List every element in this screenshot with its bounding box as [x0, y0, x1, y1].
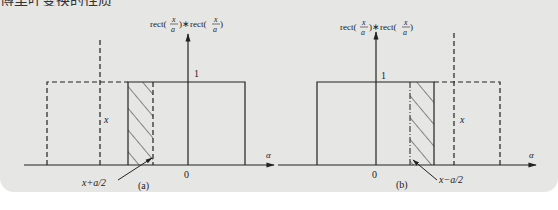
conv-operator: )∗rect(	[369, 22, 396, 32]
shift-label-a: x	[103, 114, 109, 125]
paren: )	[410, 22, 413, 32]
caption-a: (a)	[138, 180, 149, 192]
figure-b: rect( x a )∗rect( x a ) 1 x 0 α x−a/2 (b…	[278, 18, 536, 191]
origin-label-a: 0	[184, 169, 189, 180]
shifted-rect-a	[47, 82, 128, 165]
alpha-label-b: α	[529, 150, 534, 160]
caption-b: (b)	[396, 179, 408, 191]
origin-label-b: 0	[372, 169, 377, 180]
edge-label-b: x−a/2	[438, 174, 463, 185]
overlap-hatch-b	[410, 82, 434, 165]
frac-den: a	[171, 25, 175, 34]
frac-num: x	[171, 15, 176, 24]
height-label-a: 1	[194, 68, 199, 79]
height-label-b: 1	[381, 70, 386, 81]
frac-num: x	[403, 18, 408, 27]
edge-label-a: x+a/2	[81, 177, 106, 188]
alpha-label-a: α	[266, 150, 271, 160]
shifted-rect-b	[434, 82, 500, 165]
frac-den: a	[213, 25, 217, 34]
frac-num: x	[361, 18, 366, 27]
overlap-hatch-a	[128, 82, 153, 165]
figure-a: rect( x a )∗rect( x a ) 1 x 0 α x+a/2 (a…	[24, 15, 274, 192]
frac-den: a	[361, 28, 365, 37]
shift-label-b: x	[459, 114, 465, 125]
y-axis-label-a: rect(	[150, 19, 166, 29]
frac-num: x	[213, 15, 218, 24]
paren: )	[220, 19, 223, 29]
conv-operator: )∗rect(	[179, 19, 206, 29]
frac-den: a	[403, 28, 407, 37]
convolution-diagram: rect( x a )∗rect( x a ) 1 x 0 α x+a/2 (a…	[0, 0, 558, 210]
y-axis-label-b: rect(	[340, 22, 356, 32]
